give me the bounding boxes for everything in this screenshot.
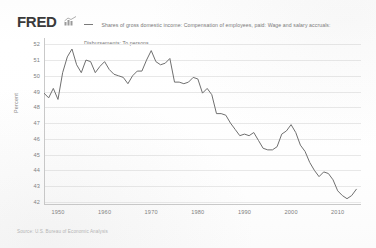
y-tick-label: 45 bbox=[14, 152, 40, 158]
x-tick-label: 1960 bbox=[98, 209, 111, 215]
y-tick-label: 43 bbox=[14, 183, 40, 189]
y-tick-label: 46 bbox=[14, 136, 40, 142]
legend-line-swatch bbox=[84, 24, 93, 25]
series-line bbox=[44, 38, 361, 205]
y-axis-title: Percent bbox=[13, 93, 19, 113]
x-tick-label: 1990 bbox=[238, 209, 251, 215]
x-tick-label: 2000 bbox=[284, 209, 297, 215]
y-axis-ticks: 5251504948474645444342 bbox=[10, 38, 40, 205]
fred-chart-page: FRED Shares of gross domestic income: Co… bbox=[0, 0, 376, 248]
x-axis-ticks: 1950196019701980199020002010 bbox=[44, 209, 361, 219]
source-note: Source: U.S. Bureau of Economic Analysis bbox=[17, 229, 108, 234]
x-tick-label: 2010 bbox=[331, 209, 344, 215]
mini-bar-chart-icon bbox=[64, 16, 77, 26]
plot-area bbox=[44, 38, 361, 205]
y-tick-label: 51 bbox=[14, 57, 40, 63]
x-tick-label: 1980 bbox=[191, 209, 204, 215]
y-tick-label: 47 bbox=[14, 120, 40, 126]
fred-logo: FRED bbox=[17, 13, 57, 30]
chart-header: FRED Shares of gross domestic income: Co… bbox=[0, 0, 376, 40]
x-tick-label: 1950 bbox=[51, 209, 64, 215]
x-tick-label: 1970 bbox=[145, 209, 158, 215]
y-tick-label: 44 bbox=[14, 167, 40, 173]
y-tick-label: 50 bbox=[14, 73, 40, 79]
y-tick-label: 52 bbox=[14, 41, 40, 47]
y-tick-label: 42 bbox=[14, 199, 40, 205]
